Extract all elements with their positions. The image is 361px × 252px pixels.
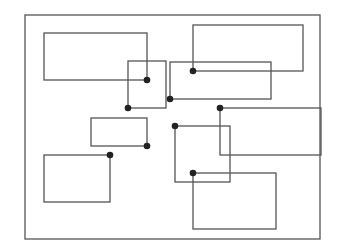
anchor-dot-r2 [125,105,132,112]
rectangles-group [44,25,321,229]
anchor-dot-r1 [144,77,151,84]
anchor-dot-r5 [217,105,224,112]
anchor-dot-r7 [107,152,114,159]
anchor-dot-r4 [167,96,174,103]
rectangle-r1 [44,33,147,80]
anchor-dot-r9 [190,170,197,177]
rectangle-r5 [220,108,321,155]
rectangle-r7 [44,155,110,202]
anchor-dot-r6 [144,143,151,150]
rectangle-r3 [193,25,303,71]
anchor-dots-group [107,68,224,177]
rectangle-r4 [170,62,271,99]
anchor-dot-r3 [190,68,197,75]
rectangle-r6 [91,118,147,146]
anchor-dot-r8 [172,123,179,130]
diagram-canvas [0,0,361,252]
